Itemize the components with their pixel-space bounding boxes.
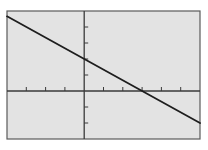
plot-area	[7, 11, 200, 139]
graphing-calculator-screen	[0, 0, 208, 150]
